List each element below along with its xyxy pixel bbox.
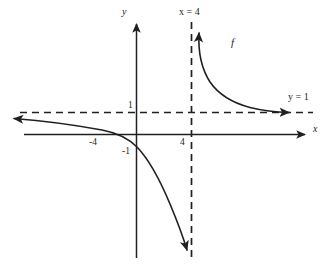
y-axis-label: y — [122, 7, 126, 17]
x-tick-label-neg4: -4 — [89, 138, 97, 148]
vertical-asymptote-label: x = 4 — [179, 7, 200, 17]
function-graph-figure: y x x = 4 y = 1 f 1 -1 -4 4 — [0, 0, 327, 272]
curve-right-branch — [199, 33, 289, 113]
horizontal-asymptote-label: y = 1 — [288, 92, 309, 102]
function-label: f — [231, 37, 234, 48]
y-tick-label-1: 1 — [128, 101, 133, 111]
y-tick-label-neg1: -1 — [122, 147, 130, 157]
curve-left-branch — [14, 119, 187, 251]
x-tick-label-4: 4 — [180, 138, 185, 148]
graph-canvas — [0, 0, 327, 272]
x-axis-label: x — [313, 124, 317, 134]
